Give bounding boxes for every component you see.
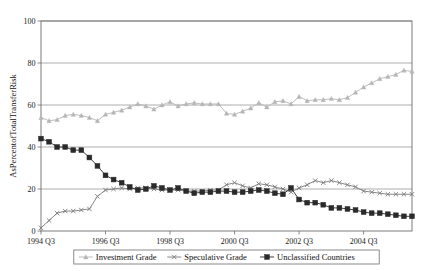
data-point [281,192,286,197]
data-point [305,200,310,205]
square-icon [265,255,270,260]
data-point [297,94,301,98]
data-point [385,212,390,217]
data-point [103,173,108,178]
data-point [369,211,374,216]
data-point [257,101,261,105]
data-point [63,145,68,150]
data-point [297,197,302,202]
x-tick-label: 1994 Q3 [27,237,55,246]
data-point [87,155,92,160]
data-point [264,189,269,194]
data-point [402,214,407,219]
y-tick-label: 0 [32,227,36,236]
data-point [337,206,342,211]
y-tick-label: 60 [28,101,36,110]
legend-label: Unclassified Countries [277,252,355,262]
x-tick-label: 2004 Q3 [350,237,378,246]
data-point [95,164,100,169]
data-point [95,194,99,198]
data-point [232,190,237,195]
data-point [305,183,309,187]
data-point [289,186,294,191]
data-point [71,148,76,153]
y-tick-label: 40 [28,143,36,152]
x-tick-label: 1996 Q3 [92,237,120,246]
data-point [127,185,132,190]
data-point [119,180,124,185]
data-point [256,188,261,193]
series-0 [39,68,414,123]
data-point [160,186,165,191]
y-axis-title: AsPercentofTotalTransferRisk [8,74,18,178]
data-point [272,191,277,196]
data-point [111,177,116,182]
data-point [47,139,52,144]
plot-border [41,21,412,231]
line-chart: 020406080100AsPercentofTotalTransferRisk… [0,0,437,271]
data-point [39,136,44,141]
x-tick-label: 2000 Q3 [221,237,249,246]
x-tick-label: 1998 Q3 [156,237,184,246]
data-point [361,210,366,215]
data-point [176,186,181,191]
data-point [297,186,301,190]
legend-label: Investment Grade [96,252,157,262]
data-point [393,213,398,218]
data-point [248,189,253,194]
x-tick-label: 2002 Q3 [285,237,313,246]
data-point [168,100,172,104]
data-point [369,81,373,85]
data-point [353,90,357,94]
data-point [377,211,382,216]
legend: Investment GradeSpeculative GradeUnclass… [74,250,379,264]
data-point [249,106,253,110]
data-point [184,189,189,194]
data-point [79,148,84,153]
data-point [192,191,197,196]
chart-container: 020406080100AsPercentofTotalTransferRisk… [0,0,437,271]
data-point [353,208,358,213]
data-point [135,188,140,193]
data-point [240,190,245,195]
data-point [39,115,43,119]
series-line [41,139,412,217]
plot-frame [41,21,412,231]
data-point [329,206,334,211]
series-1 [39,178,414,230]
y-axis-title-text: AsPercentofTotalTransferRisk [8,74,18,178]
data-point [345,207,350,212]
data-point [208,190,213,195]
data-point [143,187,148,192]
data-point [200,190,205,195]
data-point [224,189,229,194]
data-point [313,200,318,205]
legend-label: Speculative Grade [184,252,247,262]
data-point [55,145,60,150]
data-point [410,214,415,219]
data-point [394,72,398,76]
data-point [168,188,173,193]
data-point [47,218,51,222]
data-point [136,102,140,106]
data-point [321,202,326,207]
data-point [361,85,365,89]
y-tick-label: 20 [28,185,36,194]
series-2 [39,136,415,219]
y-axis: 020406080100 [24,17,42,236]
y-tick-label: 100 [24,17,36,26]
data-point [152,183,157,188]
y-tick-label: 80 [28,59,36,68]
data-point [265,105,269,109]
data-point [216,189,221,194]
data-point [345,95,349,99]
x-axis: 1994 Q31996 Q31998 Q32000 Q32002 Q32004 … [27,231,377,246]
